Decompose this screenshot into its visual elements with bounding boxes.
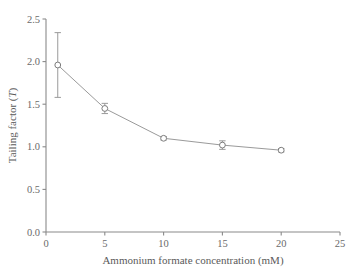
x-tick-label: 25 (335, 238, 346, 249)
x-tick-label: 15 (217, 238, 228, 249)
y-tick-label: 2.5 (27, 14, 40, 25)
axes (46, 19, 340, 232)
error-bars (55, 33, 285, 152)
y-tick-label: 1.5 (27, 99, 40, 110)
y-tick-label: 2.0 (27, 56, 40, 67)
x-tick-label: 20 (276, 238, 287, 249)
line-chart: 0.00.51.01.52.02.5 0510152025 Ammonium f… (0, 0, 352, 274)
x-tick-label: 0 (43, 238, 48, 249)
y-tick-label: 1.0 (27, 141, 40, 152)
x-tick-label: 10 (158, 238, 169, 249)
x-tick-label: 5 (102, 238, 107, 249)
data-series (58, 65, 281, 150)
svg-text:Tailing factor (T): Tailing factor (T) (6, 87, 19, 163)
x-axis-ticks: 0510152025 (43, 232, 345, 249)
data-point-marker (55, 62, 61, 68)
y-axis-title: Tailing factor (T) (6, 87, 19, 163)
data-point-marker (102, 106, 108, 112)
chart-container: 0.00.51.01.52.02.5 0510152025 Ammonium f… (0, 0, 352, 274)
data-point-marker (220, 142, 226, 148)
y-tick-label: 0.5 (27, 184, 40, 195)
data-point-marker (278, 147, 284, 153)
x-axis-title: Ammonium formate concentration (mM) (102, 254, 283, 267)
series-line (58, 65, 281, 150)
y-axis-title-part-close: ) (6, 87, 19, 91)
y-tick-label: 0.0 (27, 227, 40, 238)
y-axis-ticks: 0.00.51.01.52.02.5 (27, 14, 46, 238)
data-point-marker (161, 135, 167, 141)
y-axis-title-part-main: Tailing factor ( (6, 97, 19, 163)
